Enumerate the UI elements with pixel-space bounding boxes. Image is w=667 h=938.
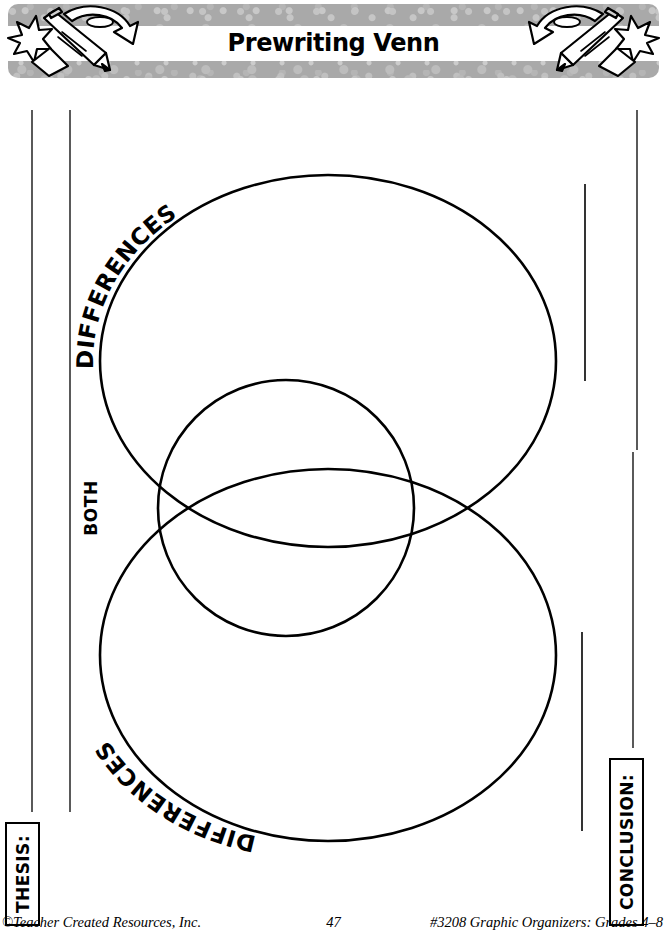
thesis-label: THESIS: [13,835,33,913]
venn-diagram: DIFFERENCES DIFFERENCES BOTH [0,78,667,923]
venn-lower-ellipse [100,469,556,841]
header-banner: Prewriting Venn [8,4,659,78]
thesis-box[interactable]: THESIS: [5,822,40,926]
label-both: BOTH [81,480,101,535]
venn-upper-ellipse [100,175,556,547]
footer-product-reference: #3208 Graphic Organizers: Grades 4–8 [430,914,663,931]
page-footer: ©Teacher Created Resources, Inc. 47 #320… [0,914,667,934]
venn-middle-circle [158,380,414,636]
label-differences-top: DIFFERENCES [72,199,181,369]
conclusion-box[interactable]: CONCLUSION: [609,758,644,926]
page-title: Prewriting Venn [8,26,659,61]
label-differences-bottom: DIFFERENCES [90,736,258,857]
conclusion-label: CONCLUSION: [617,774,637,910]
